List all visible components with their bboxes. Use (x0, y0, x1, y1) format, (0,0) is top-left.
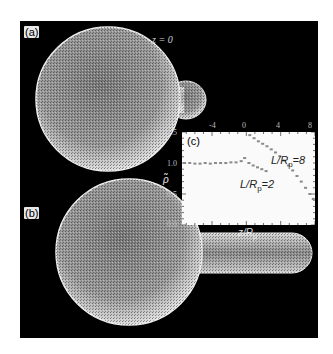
ytick-0.0: 0.0 (167, 221, 177, 229)
panel-label-c: (c) (186, 135, 201, 147)
ytick-1.5: 1.5 (167, 129, 177, 137)
series-label-l8: L/Rp=8 (271, 154, 305, 169)
series-label-l2: L/Rp=2 (240, 178, 274, 193)
inset-chart: (c) L/Rp=8 L/Rp=2 (182, 132, 315, 225)
x-axis-label-sub: p (253, 233, 257, 240)
xtick--4: -4 (209, 122, 216, 130)
xtick-4: 4 (276, 122, 280, 130)
series-l2-markers (183, 157, 268, 172)
panel-a-vesicle (36, 27, 206, 171)
figure-panel: (a) z = 0 (b) 1.5 1.0 0.5 0.0 ρ̃ -4 0 4 … (20, 21, 318, 338)
panel-label-a: (a) (24, 26, 39, 38)
x-axis-label-main: z/R (238, 227, 253, 238)
ytick-1.0: 1.0 (167, 160, 177, 168)
xtick-0: 0 (242, 122, 246, 130)
y-axis-label: ρ̃ (163, 174, 169, 185)
z-zero-annotation: z = 0 (152, 34, 173, 45)
xtick-8: 8 (308, 122, 312, 130)
panel-label-b: (b) (24, 207, 39, 219)
ytick-0.5: 0.5 (167, 191, 177, 199)
x-axis-label: z/Rp (238, 227, 257, 240)
